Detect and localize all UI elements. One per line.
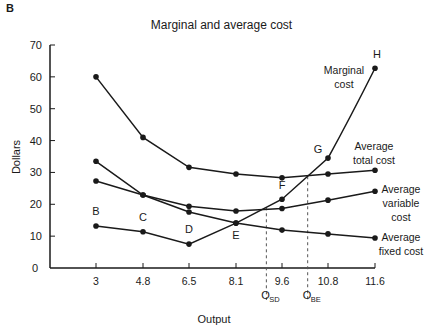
x-tick-label: 3 [93,275,99,287]
data-point [325,155,331,161]
y-tick-label: 60 [30,71,42,83]
point-label-c: C [139,211,147,223]
y-tick-label: 20 [30,198,42,210]
average-total-cost-line [96,77,375,178]
x-tick-label: 11.6 [365,275,385,287]
data-point [279,206,285,212]
y-tick-label: 30 [30,166,42,178]
data-point [372,235,378,241]
data-point [233,208,239,214]
y-tick-label: 50 [30,103,42,115]
data-point [140,192,146,198]
x-tick-label: 9.6 [275,275,290,287]
x-axis-label: Output [197,313,230,325]
point-label-b: B [92,205,99,217]
average-fixed-cost-label: fixed cost [379,245,423,257]
cost-chart: 01020304050607034.86.58.19.610.811.6Outp… [0,0,433,330]
average-variable-cost-label: Average [382,183,421,195]
data-point [279,227,285,233]
annotation-subscript: SD [269,295,280,304]
y-tick-label: 70 [30,39,42,51]
average-total-cost-label: Average [355,140,394,152]
marginal-cost-label: Marginal [324,64,364,76]
marginal-cost-line [96,68,375,244]
y-tick-label: 40 [30,135,42,147]
annotation-subscript: BE [311,295,321,304]
point-label-h: H [373,48,381,60]
data-point [372,188,378,194]
x-tick-label: 10.8 [318,275,339,287]
data-point [233,220,239,226]
y-tick-label: 10 [30,230,42,242]
x-tick-label: 6.5 [182,275,197,287]
x-tick-label: 4.8 [136,275,151,287]
average-variable-cost-label: cost [391,211,410,223]
data-point [140,229,146,235]
data-point [372,167,378,173]
data-point [186,241,192,247]
data-point [93,158,99,164]
data-point [279,196,285,202]
y-tick-label: 0 [32,262,38,274]
data-point [372,65,378,71]
y-axis-label: Dollars [10,139,22,174]
average-fixed-cost-label: Average [382,231,421,243]
average-total-cost-label: total cost [353,154,395,166]
data-point [140,135,146,141]
x-tick-label: 8.1 [229,275,244,287]
data-point [325,231,331,237]
data-point [93,74,99,80]
point-label-e: E [232,229,239,241]
data-point [93,223,99,229]
average-variable-cost-label: variable [383,197,420,209]
average-variable-cost-line [96,181,375,211]
point-label-d: D [185,223,193,235]
data-point [93,178,99,184]
data-point [233,171,239,177]
data-point [325,197,331,203]
data-point [186,209,192,215]
marginal-cost-label: cost [334,78,353,90]
data-point [325,171,331,177]
point-label-g: G [314,143,323,155]
point-label-f: F [279,179,286,191]
data-point [186,165,192,171]
data-point [279,175,285,181]
data-point [186,203,192,209]
